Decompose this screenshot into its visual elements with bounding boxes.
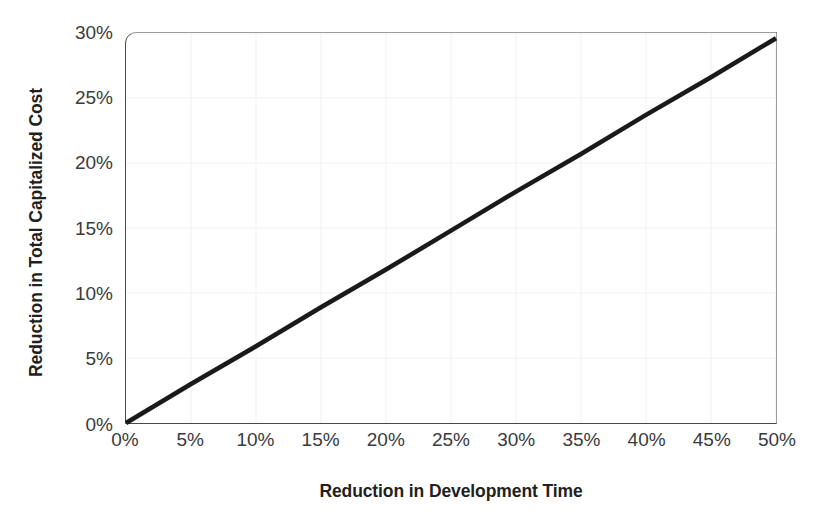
- x-axis-tick-label: 35%: [562, 430, 600, 449]
- y-axis-tick-label: 10%: [75, 284, 113, 303]
- x-axis-tick-label: 10%: [236, 430, 274, 449]
- plot-canvas: [126, 33, 776, 423]
- x-axis-tick-label: 40%: [628, 430, 666, 449]
- x-axis-tick-label: 50%: [758, 430, 796, 449]
- y-axis-tick-label: 5%: [86, 349, 113, 368]
- x-axis-tick-label: 30%: [497, 430, 535, 449]
- x-axis-tick-label: 15%: [302, 430, 340, 449]
- line-chart-figure: Reduction in Total Capitalized Cost 0%5%…: [0, 0, 835, 521]
- x-axis-tick-label: 5%: [176, 430, 203, 449]
- x-axis-tick-label: 0%: [111, 430, 138, 449]
- y-axis-tick-label: 15%: [75, 219, 113, 238]
- y-axis-tick-label: 0%: [86, 415, 113, 434]
- y-axis-tick-label: 25%: [75, 88, 113, 107]
- x-axis-tick-label: 45%: [693, 430, 731, 449]
- y-axis-title: Reduction in Total Capitalized Cost: [26, 33, 47, 433]
- x-axis-tick-label: 25%: [432, 430, 470, 449]
- y-axis-tick-label: 30%: [75, 23, 113, 42]
- y-axis-tick-label: 20%: [75, 153, 113, 172]
- plot-area: [125, 32, 777, 424]
- x-axis-title: Reduction in Development Time: [125, 481, 777, 502]
- x-axis-tick-label: 20%: [367, 430, 405, 449]
